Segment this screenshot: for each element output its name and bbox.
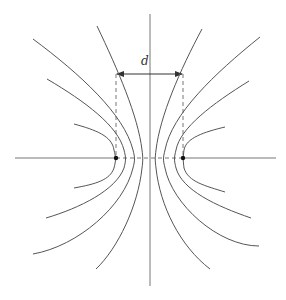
right-charge xyxy=(181,156,185,160)
field-line-diagram xyxy=(0,0,286,300)
right-field-lines xyxy=(155,29,260,269)
left-charge xyxy=(114,156,118,160)
left-field-lines xyxy=(33,26,143,269)
distance-label: d xyxy=(141,54,149,68)
